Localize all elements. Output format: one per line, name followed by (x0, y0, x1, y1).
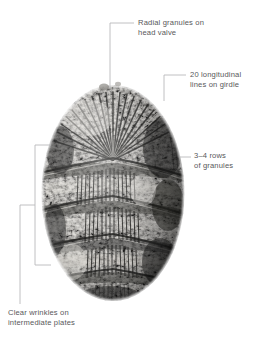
callout-longitudinal-lines: 20 longitudinal lines on girdle (190, 70, 241, 91)
callout-radial-granules: Radial granules on head valve (138, 18, 204, 39)
callout-clear-wrinkles: Clear wrinkles on intermediate plates (8, 308, 75, 329)
leader-longitudinal-lines (164, 75, 186, 101)
leader-radial-granules (110, 23, 134, 88)
annotated-fossil-figure: Radial granules on head valve 20 longitu… (0, 0, 264, 339)
leader-clear-wrinkles-stem (20, 205, 35, 304)
fossil-specimen-image (38, 80, 190, 312)
callout-rows-of-granules: 3–4 rows of granules (194, 151, 233, 172)
